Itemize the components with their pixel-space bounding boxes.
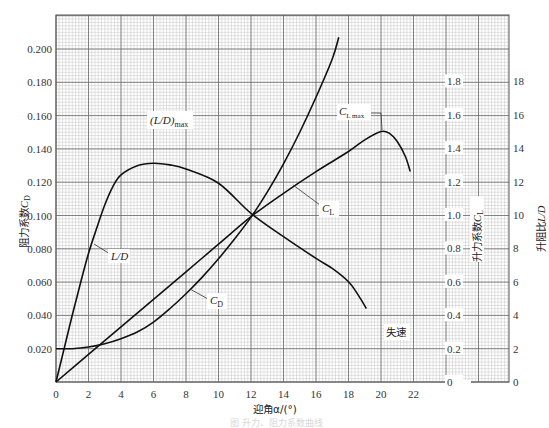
svg-text:0.120: 0.120 [27,176,52,188]
svg-text:18: 18 [513,75,525,87]
svg-text:0.8: 0.8 [447,242,461,254]
svg-text:0: 0 [53,388,59,400]
svg-text:0.180: 0.180 [27,76,52,88]
x-axis-title: 迎角α/(°) [253,403,297,415]
ld-label: L/D [110,250,128,262]
svg-text:8: 8 [183,388,189,400]
svg-text:0.2: 0.2 [447,343,461,355]
svg-text:6: 6 [513,276,519,288]
svg-text:20: 20 [376,388,388,400]
ld-curve [56,163,366,382]
stall-label: 失速 [386,326,407,338]
svg-text:0.140: 0.140 [27,143,52,155]
svg-text:4: 4 [513,309,519,321]
svg-text:0.040: 0.040 [27,309,52,321]
figure-caption: 图 升力、阻力系数曲线 [230,417,323,428]
svg-text:0.6: 0.6 [447,276,461,288]
ld-axis-ticks: 024681012141618 [513,75,525,388]
left-axis-title: 阻力系数CD [18,195,32,248]
svg-text:16: 16 [311,388,323,400]
svg-text:0.100: 0.100 [27,210,52,222]
svg-text:18: 18 [343,388,355,400]
svg-text:14: 14 [278,388,290,400]
svg-text:0.060: 0.060 [27,276,52,288]
svg-text:10: 10 [513,209,525,221]
svg-text:0.020: 0.020 [27,343,52,355]
svg-text:6: 6 [151,388,157,400]
svg-text:1.8: 1.8 [447,75,461,87]
svg-text:10: 10 [213,388,225,400]
svg-text:16: 16 [513,109,525,121]
svg-text:22: 22 [408,388,419,400]
cl-axis-title: 升力系数CL [471,210,485,262]
svg-text:4: 4 [118,388,124,400]
svg-text:1.6: 1.6 [447,109,461,121]
svg-text:0.200: 0.200 [27,43,52,55]
svg-text:2: 2 [86,388,92,400]
svg-text:8: 8 [513,242,519,254]
major-grid [56,15,509,382]
ld-axis-title: 升阻比L/D [535,205,547,252]
minor-grid [56,15,509,382]
plot-frame [56,15,509,382]
chart: 00.20.40.60.81.01.21.41.61.8 0.0200.0400… [0,0,549,428]
x-axis-ticks: 0246810121416182022 [53,388,419,400]
svg-text:1.4: 1.4 [447,142,461,154]
svg-text:2: 2 [513,343,519,355]
svg-text:0.160: 0.160 [27,110,52,122]
svg-text:0: 0 [447,376,453,388]
svg-text:14: 14 [513,142,525,154]
svg-text:0.080: 0.080 [27,243,52,255]
plot-area: 00.20.40.60.81.01.21.41.61.8 0.0200.0400… [0,0,549,428]
svg-text:0.4: 0.4 [447,309,461,321]
svg-text:0: 0 [513,376,519,388]
cl-axis-ticks: 00.20.40.60.81.01.21.41.61.8 [445,74,471,388]
svg-text:12: 12 [246,388,257,400]
svg-text:1.0: 1.0 [447,209,461,221]
svg-text:1.2: 1.2 [447,176,461,188]
svg-text:12: 12 [513,176,524,188]
